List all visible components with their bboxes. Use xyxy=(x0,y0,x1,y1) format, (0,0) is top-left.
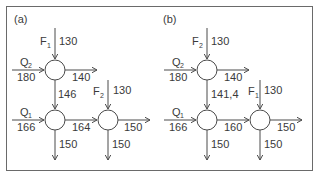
input-value: 166 xyxy=(17,121,35,133)
input-subscript: 1 xyxy=(28,112,32,119)
flow-diagram: (a) F 1 130 Q 2 180 140 146 Q 1 166 164 … xyxy=(0,0,319,179)
input-name: F xyxy=(40,35,47,47)
panel-b: (b) F 2 130 Q 2 180 140 141,4 Q 1 166 16… xyxy=(163,13,302,160)
output-value: 150 xyxy=(112,138,130,150)
input-name: F xyxy=(248,85,255,97)
output-value: 150 xyxy=(124,121,142,133)
input-subscript: 2 xyxy=(100,92,104,99)
input-subscript: 2 xyxy=(180,62,184,69)
flow-value: 160 xyxy=(224,121,242,133)
input-value: 130 xyxy=(264,84,282,96)
input-value: 130 xyxy=(211,35,229,47)
input-subscript: 2 xyxy=(28,62,32,69)
input-subscript: 1 xyxy=(180,112,184,119)
input-subscript: 2 xyxy=(199,42,203,49)
flow-value: 141,4 xyxy=(211,88,239,100)
input-value: 180 xyxy=(169,71,187,83)
input-value: 130 xyxy=(59,35,77,47)
input-name: F xyxy=(93,85,100,97)
input-subscript: 1 xyxy=(47,42,51,49)
input-value: 180 xyxy=(17,71,35,83)
output-value: 140 xyxy=(72,71,90,83)
input-value: 166 xyxy=(169,121,187,133)
output-value: 150 xyxy=(277,121,295,133)
node-circle xyxy=(197,60,217,80)
node-circle xyxy=(98,110,118,130)
output-value: 150 xyxy=(211,138,229,150)
output-value: 150 xyxy=(59,138,77,150)
flow-value: 164 xyxy=(72,121,90,133)
panel-label: (b) xyxy=(163,13,176,25)
flow-value: 146 xyxy=(58,88,76,100)
node-circle xyxy=(197,110,217,130)
input-name: F xyxy=(192,35,199,47)
output-value: 140 xyxy=(224,71,242,83)
panel-a: (a) F 1 130 Q 2 180 140 146 Q 1 166 164 … xyxy=(12,13,150,160)
panel-label: (a) xyxy=(14,13,27,25)
output-value: 150 xyxy=(264,138,282,150)
node-circle xyxy=(45,60,65,80)
node-circle xyxy=(45,110,65,130)
input-subscript: 1 xyxy=(255,92,259,99)
input-value: 130 xyxy=(113,84,131,96)
node-circle xyxy=(250,110,270,130)
